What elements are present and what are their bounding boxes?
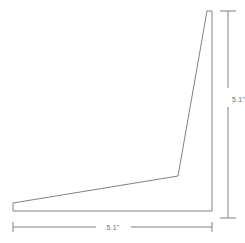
drawing-svg: 5.1" 5.1" [0, 0, 245, 243]
angle-bracket-outline [13, 11, 212, 211]
horizontal-dimension: 5.1" [13, 222, 212, 232]
vertical-dimension: 5.1" [220, 11, 245, 218]
horizontal-dimension-label: 5.1" [106, 224, 119, 231]
technical-drawing-canvas: 5.1" 5.1" [0, 0, 245, 243]
vertical-dimension-label: 5.1" [232, 96, 245, 103]
